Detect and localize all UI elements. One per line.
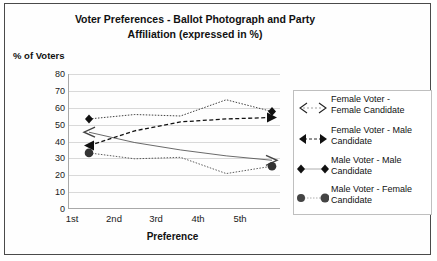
x-tick: 2nd: [94, 213, 134, 224]
x-axis-ticks: 1st 2nd 3rd 4th 5th: [68, 213, 280, 227]
series-line: [89, 117, 272, 145]
chart-frame: Voter Preferences - Ballot Photograph an…: [4, 3, 431, 255]
y-tick: 30: [37, 154, 65, 163]
legend-label: Male Voter - Male Candidate: [331, 155, 431, 177]
legend-label: Female Voter - Female Candidate: [331, 94, 431, 116]
y-axis-label: % of Voters: [13, 50, 65, 61]
legend-item-female-voter-female-candidate[interactable]: Female Voter - Female Candidate: [294, 93, 433, 124]
series-line: [89, 153, 272, 174]
chart-title-line-1: Voter Preferences - Ballot Photograph an…: [45, 12, 345, 27]
legend-label: Female Voter - Male Candidate: [331, 125, 431, 147]
y-tick: 40: [37, 138, 65, 147]
legend-label: Male Voter - Female Candidate: [331, 184, 431, 206]
plot-area: [68, 74, 280, 209]
legend-key-diamond-icon: [297, 161, 329, 177]
legend-key-open-arrow-icon: [297, 100, 329, 116]
y-axis-ticks: 80 70 60 50 40 30 20 10 0: [33, 74, 65, 209]
data-point-marker: [268, 162, 277, 171]
y-tick: 80: [37, 70, 65, 79]
x-tick: 1st: [52, 213, 92, 224]
data-point-marker: [85, 114, 93, 123]
legend-key-filled-arrow-icon: [297, 131, 329, 147]
x-tick: 3rd: [136, 213, 176, 224]
y-tick: 10: [37, 188, 65, 197]
y-tick: 70: [37, 87, 65, 96]
y-tick: 20: [37, 171, 65, 180]
data-point-marker: [85, 149, 94, 158]
x-axis-label: Preference: [60, 231, 285, 242]
legend-item-male-voter-female-candidate[interactable]: Male Voter - Female Candidate: [294, 183, 433, 214]
x-tick: 4th: [178, 213, 218, 224]
series-layer: [68, 74, 280, 209]
legend-item-male-voter-male-candidate[interactable]: Male Voter - Male Candidate: [294, 154, 433, 185]
chart-title-line-2: Affiliation (expressed in %): [45, 27, 345, 42]
chart-title: Voter Preferences - Ballot Photograph an…: [45, 12, 345, 42]
series-line: [89, 100, 272, 119]
chart-legend: Female Voter - Female Candidate Female V…: [293, 90, 432, 215]
legend-item-female-voter-male-candidate[interactable]: Female Voter - Male Candidate: [294, 124, 433, 155]
y-tick: 50: [37, 121, 65, 130]
x-tick: 5th: [220, 213, 260, 224]
legend-key-circle-icon: [297, 190, 329, 206]
y-tick: 60: [37, 104, 65, 113]
